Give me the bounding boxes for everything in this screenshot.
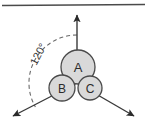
atom-b: B bbox=[49, 75, 75, 101]
diagram-container: A B C 120° bbox=[0, 0, 147, 134]
angle-label-group: 120° bbox=[27, 41, 48, 67]
atom-c-label: C bbox=[86, 82, 95, 96]
atom-c: C bbox=[78, 76, 102, 100]
geometry-diagram-svg: A B C 120° bbox=[0, 0, 147, 134]
angle-label-text: 120° bbox=[27, 41, 48, 67]
atom-a-label: A bbox=[74, 60, 83, 75]
atom-b-label: B bbox=[58, 82, 66, 96]
top-rule-line bbox=[2, 5, 145, 6]
